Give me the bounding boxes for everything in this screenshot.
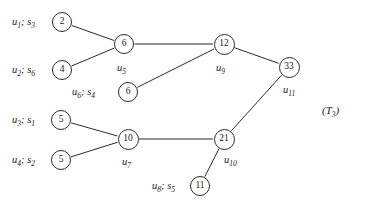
graph-node-n5b: 5 [51, 150, 71, 170]
edge-layer [0, 0, 368, 201]
vertex-label-lbl_u3: u3; s1 [12, 115, 35, 128]
vertex-label-lbl_u1: u1; s3 [12, 17, 35, 30]
graph-edge-n5b-n10 [71, 142, 117, 157]
edge-label-lbl_u7: u7 [122, 157, 131, 170]
vertex-label-lbl_u2: u2; s6 [12, 65, 35, 78]
vertex-label-lbl_u6: u6; s4 [72, 87, 95, 100]
graph-edge-n33-n21 [231, 75, 281, 131]
edge-label-lbl_u5: u5 [117, 63, 126, 76]
graph-node-n33: 33 [279, 57, 300, 78]
graph-edge-n12-n33 [234, 48, 278, 64]
graph-edge-n2-n6a [72, 26, 114, 41]
graph-node-n4: 4 [52, 60, 72, 80]
graph-edge-n6b-n12 [137, 49, 214, 87]
tree-diagram-figure: 2466123355102111 u1; s3u2; s6u6; s4u3; s… [0, 0, 368, 201]
edge-label-lbl_u11: u11 [283, 85, 295, 98]
figure-caption: (T3) [322, 105, 339, 119]
vertex-label-lbl_u8: u8; s5 [152, 181, 175, 194]
graph-edge-n5a-n10 [71, 123, 117, 136]
edge-label-lbl_u10: u10 [224, 155, 237, 168]
graph-edge-n4-n6a [72, 48, 115, 66]
graph-node-n6a: 6 [114, 34, 134, 54]
graph-edge-n11-n21 [205, 149, 219, 177]
graph-node-n12: 12 [214, 34, 235, 55]
edge-label-lbl_u9: u9 [216, 63, 225, 76]
graph-node-n6b: 6 [118, 82, 138, 102]
graph-node-n10: 10 [118, 129, 139, 150]
graph-node-n11: 11 [190, 176, 210, 196]
graph-node-n21: 21 [214, 129, 235, 150]
graph-node-n2: 2 [52, 12, 72, 32]
graph-node-n5a: 5 [51, 110, 71, 130]
vertex-label-lbl_u4: u4; s2 [12, 155, 35, 168]
